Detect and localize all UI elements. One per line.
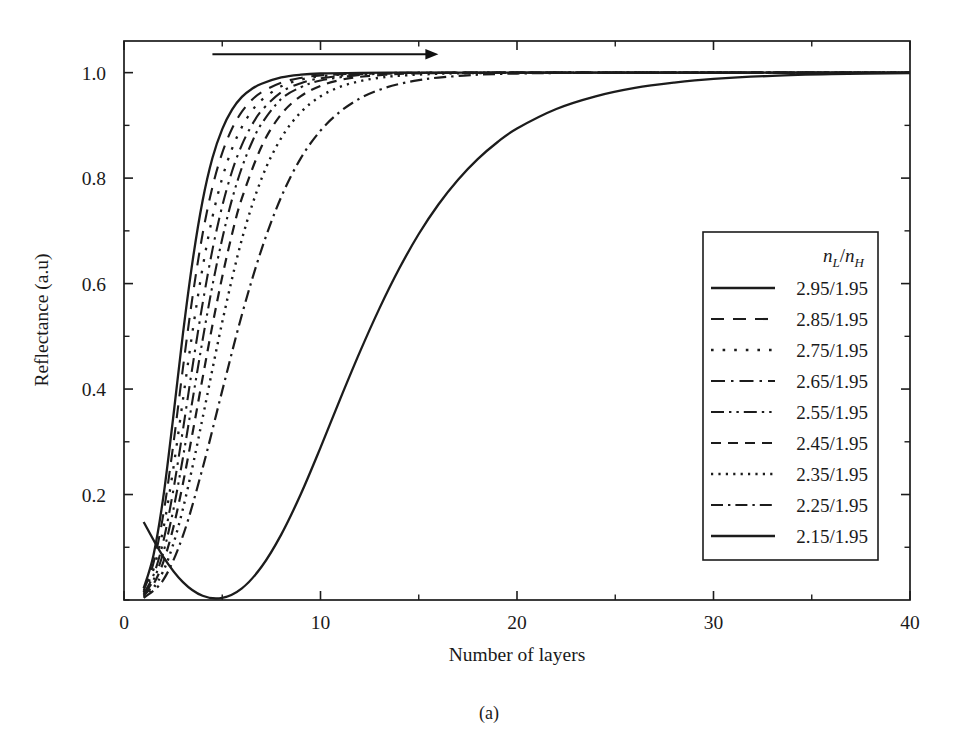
chart-annotations [212,49,438,59]
legend-label-2-15-1-95: 2.15/1.95 [796,526,868,547]
legend-label-2-65-1-95: 2.65/1.95 [796,371,868,392]
y-tick-label: 0.2 [82,485,106,506]
y-tick-label: 0.4 [82,379,107,400]
y-tick-label: 0.6 [82,274,107,295]
legend-label-2-45-1-95: 2.45/1.95 [796,433,868,454]
legend-label-2-95-1-95: 2.95/1.95 [796,278,868,299]
x-tick-label: 0 [119,612,129,633]
x-tick-label: 40 [900,612,920,633]
chart-legend: nL/nH2.95/1.952.85/1.952.75/1.952.65/1.9… [703,232,878,560]
trend-arrow-head [425,49,438,59]
legend-label-2-25-1-95: 2.25/1.95 [796,495,868,516]
y-tick-label: 0.8 [82,168,106,189]
x-tick-label: 20 [507,612,527,633]
legend-label-2-85-1-95: 2.85/1.95 [796,309,868,330]
reflectance-chart: 010203040 0.20.40.60.81.0 nL/nH2.95/1.95… [0,0,953,754]
y-tick-labels: 0.20.40.60.81.0 [82,63,107,506]
figure-caption: (a) [479,703,499,724]
x-tick-label: 30 [704,612,724,633]
y-axis-title: Reflectance (a.u) [31,253,53,386]
figure-container: 010203040 0.20.40.60.81.0 nL/nH2.95/1.95… [0,0,953,754]
legend-label-2-75-1-95: 2.75/1.95 [796,340,868,361]
legend-label-2-55-1-95: 2.55/1.95 [796,402,868,423]
legend-label-2-35-1-95: 2.35/1.95 [796,464,868,485]
y-tick-label: 1.0 [82,63,106,84]
x-tick-label: 10 [311,612,331,633]
x-axis-title: Number of layers [449,644,585,665]
x-tick-labels: 010203040 [119,612,920,633]
